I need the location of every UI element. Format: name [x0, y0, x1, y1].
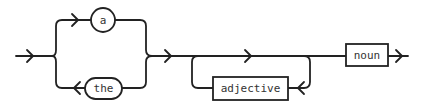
terminal-a-label: a: [100, 14, 107, 27]
syntax-diagram: a the adjective noun: [0, 0, 423, 110]
terminal-the-label: the: [94, 82, 114, 95]
nonterminal-adjective: adjective: [213, 77, 288, 100]
choice-left-rail: [52, 20, 91, 88]
nonterminal-adjective-label: adjective: [221, 82, 281, 95]
railroad-diagram: a the adjective noun: [0, 0, 423, 110]
terminal-a: a: [91, 8, 115, 32]
nonterminal-noun-label: noun: [354, 49, 381, 62]
terminal-the: the: [85, 78, 122, 99]
choice-right-rail: [115, 20, 152, 88]
nonterminal-noun: noun: [346, 44, 388, 66]
